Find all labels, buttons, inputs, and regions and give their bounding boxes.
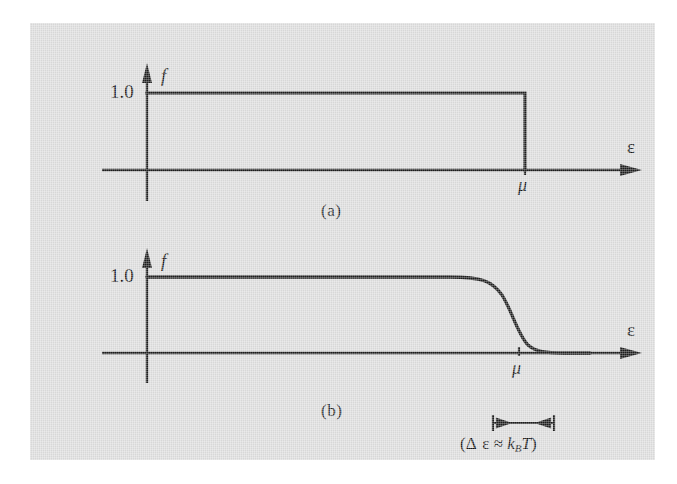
y-tick-label-b: 1.0 (110, 265, 134, 287)
subplot-caption-b: (b) (321, 401, 342, 421)
figure-panel: f 1.0 ε μ (a) (30, 23, 655, 460)
annotation-k: k (507, 434, 515, 453)
energy-width-annotation: (Δ ε ≈ kBT) (460, 434, 537, 454)
subplot-b: f 1.0 ε μ (Δ ε ≈ kBT) (b) (30, 23, 655, 460)
fermi-curve-b (147, 277, 590, 353)
annotation-epsilon: ε (482, 434, 489, 453)
figure-page: f 1.0 ε μ (a) (0, 0, 677, 484)
width-bracket (493, 415, 554, 431)
y-axis-label-b: f (161, 250, 166, 272)
subplot-b-axes (102, 263, 626, 383)
annotation-close-paren: ) (531, 434, 537, 453)
annotation-temperature: T (522, 434, 531, 453)
annotation-approx: ≈ (494, 434, 503, 453)
annotation-k-subscript: B (515, 442, 522, 454)
x-axis-arrowhead-b (620, 347, 642, 359)
x-tick-label-mu-b: μ (512, 358, 521, 379)
annotation-delta: Δ (466, 434, 477, 453)
x-axis-label-b: ε (627, 319, 635, 341)
y-axis-arrowhead-b (142, 248, 152, 268)
